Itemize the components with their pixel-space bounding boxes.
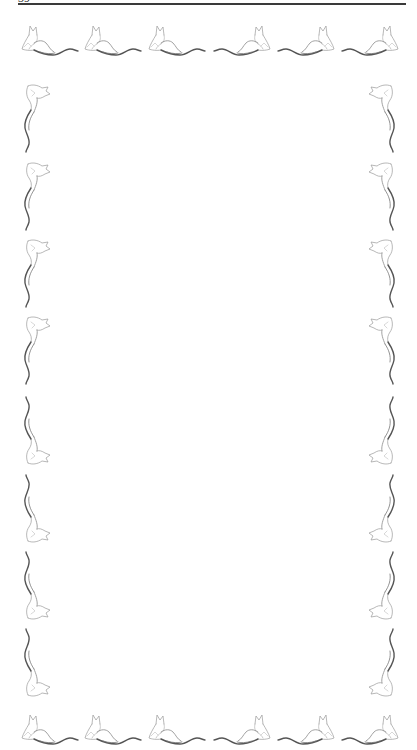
cat-border-icon — [365, 314, 401, 386]
cat-border-icon — [18, 627, 54, 699]
cat-border-icon — [365, 473, 401, 545]
reclining-cat-icon — [212, 712, 272, 748]
reclining-cat-icon — [147, 712, 207, 748]
header-rule — [18, 3, 406, 5]
reclining-cat-icon — [20, 712, 80, 748]
cat-border-icon — [365, 82, 401, 154]
reclining-cat-icon — [147, 23, 207, 59]
reclining-cat-icon — [83, 23, 143, 59]
reclining-cat-icon — [340, 23, 400, 59]
reclining-cat-icon — [276, 712, 336, 748]
reclining-cat-icon — [276, 23, 336, 59]
cat-border-icon — [18, 237, 54, 309]
reclining-cat-icon — [340, 712, 400, 748]
reclining-cat-icon — [20, 23, 80, 59]
cat-border-icon — [365, 237, 401, 309]
cat-border-icon — [18, 550, 54, 622]
cat-border-icon — [365, 550, 401, 622]
reclining-cat-icon — [212, 23, 272, 59]
reclining-cat-icon — [83, 712, 143, 748]
cat-border-icon — [365, 627, 401, 699]
cat-border-icon — [18, 160, 54, 232]
cat-border-icon — [365, 395, 401, 467]
cat-border-icon — [18, 473, 54, 545]
document-page: 39 — [0, 0, 417, 750]
cat-border-icon — [365, 160, 401, 232]
page-body — [60, 75, 357, 700]
cat-border-icon — [18, 82, 54, 154]
cat-border-icon — [18, 395, 54, 467]
cat-border-icon — [18, 314, 54, 386]
